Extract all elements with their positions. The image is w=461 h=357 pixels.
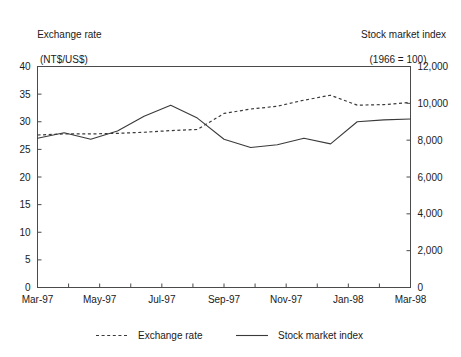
right-axis-title-line2: (1966 = 100) bbox=[336, 54, 460, 67]
chart-legend: Exchange rateStock market index bbox=[96, 330, 363, 341]
chart-figure: Exchange rate (NT$/US$) Stock market ind… bbox=[0, 0, 461, 357]
right-axis-title: Stock market index (1966 = 100) bbox=[336, 16, 460, 91]
legend-item-stock-market-index-label: Stock market index bbox=[278, 330, 363, 341]
y-tick-label-right: 6,000 bbox=[418, 172, 443, 183]
right-axis-title-line1: Stock market index bbox=[361, 29, 446, 40]
y-tick-label-right: 8,000 bbox=[418, 135, 443, 146]
x-tick-label: Jan-98 bbox=[333, 294, 364, 305]
plot-frame bbox=[38, 67, 411, 288]
y-tick-label-right: 0 bbox=[418, 282, 424, 293]
legend-item-exchange-rate-label: Exchange rate bbox=[138, 330, 203, 341]
left-axis-title: Exchange rate (NT$/US$) bbox=[26, 16, 102, 91]
y-tick-label-right: 10,000 bbox=[418, 98, 449, 109]
y-tick-label-right: 2,000 bbox=[418, 245, 443, 256]
series-line-stock-market-index bbox=[38, 105, 411, 147]
y-tick-label-right: 4,000 bbox=[418, 208, 443, 219]
x-tick-label: May-97 bbox=[83, 294, 117, 305]
x-tick-label: Sep-97 bbox=[208, 294, 241, 305]
y-tick-label-left: 10 bbox=[19, 227, 31, 238]
y-axis-left-tick-labels: 0510152025303540 bbox=[19, 61, 31, 293]
y-tick-label-left: 15 bbox=[19, 199, 31, 210]
y-tick-label-left: 30 bbox=[19, 116, 31, 127]
y-tick-label-left: 20 bbox=[19, 172, 31, 183]
y-tick-label-left: 5 bbox=[25, 254, 31, 265]
y-tick-label-left: 0 bbox=[25, 282, 31, 293]
series-line-exchange-rate bbox=[38, 95, 411, 135]
x-tick-label: Jul-97 bbox=[148, 294, 176, 305]
x-tick-label: Mar-98 bbox=[395, 294, 427, 305]
x-axis-tick-labels: Mar-97May-97Jul-97Sep-97Nov-97Jan-98Mar-… bbox=[22, 294, 427, 305]
y-axis-tick-marks bbox=[38, 94, 42, 260]
x-tick-label: Mar-97 bbox=[22, 294, 54, 305]
left-axis-title-line1: Exchange rate bbox=[37, 29, 102, 40]
left-axis-title-line2: (NT$/US$) bbox=[26, 54, 102, 67]
x-axis-tick-marks bbox=[69, 284, 380, 288]
y-axis-right-tick-labels: 02,0004,0006,0008,00010,00012,000 bbox=[407, 61, 449, 293]
y-tick-label-left: 25 bbox=[19, 144, 31, 155]
x-tick-label: Nov-97 bbox=[270, 294, 303, 305]
